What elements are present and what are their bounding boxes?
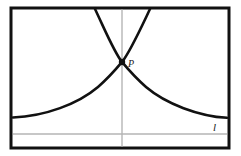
- figure-canvas: P l: [0, 0, 241, 156]
- line-l-label: l: [213, 121, 216, 133]
- intersection-point-marker: [119, 59, 125, 65]
- point-p-label: P: [127, 58, 134, 69]
- diagram-frame: [11, 8, 229, 148]
- decreasing-exponential-curve: [95, 9, 227, 118]
- math-diagram: P l: [0, 0, 241, 156]
